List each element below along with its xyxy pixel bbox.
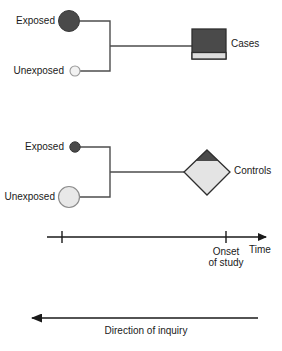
controls-unexposed-label: Unexposed: [0, 191, 55, 202]
controls-group-graphics: [59, 142, 235, 208]
case-control-diagram: Exposed Unexposed Cases Exposed Unexpose…: [0, 0, 282, 351]
cases-outcome-label: Cases: [231, 38, 259, 49]
cases-unexposed-label: Unexposed: [0, 65, 64, 76]
controls-exposed-label: Exposed: [0, 141, 64, 152]
onset-label-line2: of study: [196, 257, 256, 268]
cases-group-graphics: [59, 11, 227, 77]
controls-bracket-path: [80, 147, 110, 197]
onset-label-line1: Onset: [196, 246, 256, 257]
time-axis-label: Time: [249, 244, 271, 255]
cases-unexposed-marker: [70, 66, 80, 76]
cases-exposed-marker: [59, 11, 80, 32]
cases-exposed-label: Exposed: [0, 15, 55, 26]
cases-bracket-path: [80, 21, 110, 71]
cases-square-band: [192, 53, 226, 60]
controls-diamond-wedge: [182, 148, 234, 161]
controls-unexposed-marker: [59, 187, 80, 208]
controls-outcome-label: Controls: [234, 165, 271, 176]
inquiry-axis-label: Direction of inquiry: [41, 325, 251, 336]
controls-exposed-marker: [70, 142, 80, 152]
time-axis-graphics: [47, 231, 266, 243]
